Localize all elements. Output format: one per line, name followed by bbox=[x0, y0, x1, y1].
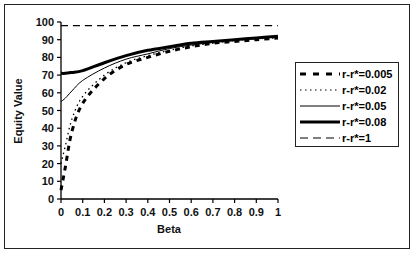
x-tick-label: 0 bbox=[58, 206, 64, 218]
x-axis-title: Beta bbox=[157, 223, 182, 235]
legend-swatch-dashed bbox=[300, 133, 340, 143]
x-tick-label: 0.7 bbox=[205, 206, 220, 218]
x-tick-label: 0.6 bbox=[184, 206, 199, 218]
legend-item: r-r*=0.02 bbox=[300, 82, 396, 98]
legend-item: r-r*=0.05 bbox=[300, 98, 396, 114]
y-tick-label: 70 bbox=[42, 69, 54, 81]
legend-label: r-r*=0.02 bbox=[342, 84, 386, 96]
x-tick-label: 0.2 bbox=[97, 206, 112, 218]
y-tick-label: 60 bbox=[42, 87, 54, 99]
legend-label: r-r*=0.005 bbox=[342, 68, 392, 80]
legend-swatch-thin-solid bbox=[300, 101, 340, 111]
series-lines bbox=[61, 26, 278, 191]
x-tick-label: 0.8 bbox=[227, 206, 242, 218]
series-line-dotted bbox=[61, 38, 278, 164]
legend-item: r-r*=0.08 bbox=[300, 114, 396, 130]
legend-swatch-thick-solid bbox=[300, 117, 340, 127]
legend-swatch-thick-dashed bbox=[300, 69, 340, 79]
legend-item: r-r*=1 bbox=[300, 130, 396, 146]
axes: 010203040506070809010000.10.20.30.40.50.… bbox=[36, 16, 281, 218]
y-tick-label: 40 bbox=[42, 122, 54, 134]
legend-item: r-r*=0.005 bbox=[300, 66, 396, 82]
x-tick-label: 0.9 bbox=[249, 206, 264, 218]
series-line-thick-dashed bbox=[61, 38, 278, 190]
x-tick-label: 0.1 bbox=[75, 206, 90, 218]
x-tick-label: 0.4 bbox=[140, 206, 156, 218]
legend-label: r-r*=1 bbox=[342, 132, 371, 144]
y-tick-label: 90 bbox=[42, 34, 54, 46]
x-tick-label: 0.5 bbox=[162, 206, 177, 218]
y-axis-title: Equity Value bbox=[12, 78, 24, 143]
legend: r-r*=0.005 r-r*=0.02 r-r*=0.05 r-r*=0.08… bbox=[295, 62, 399, 147]
y-tick-label: 30 bbox=[42, 140, 54, 152]
y-tick-label: 50 bbox=[42, 105, 54, 117]
x-tick-label: 1 bbox=[275, 206, 281, 218]
y-tick-label: 0 bbox=[48, 193, 54, 205]
legend-label: r-r*=0.05 bbox=[342, 100, 386, 112]
y-tick-label: 20 bbox=[42, 158, 54, 170]
y-tick-label: 10 bbox=[42, 175, 54, 187]
x-tick-label: 0.3 bbox=[118, 206, 133, 218]
y-tick-label: 100 bbox=[36, 16, 54, 28]
legend-swatch-dotted bbox=[300, 85, 340, 95]
y-tick-label: 80 bbox=[42, 51, 54, 63]
legend-label: r-r*=0.08 bbox=[342, 116, 386, 128]
